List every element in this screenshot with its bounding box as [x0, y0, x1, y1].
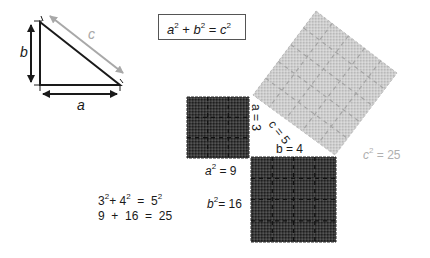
label-c: c: [88, 27, 95, 41]
equation-line-1: 32+ 42 = 52: [98, 193, 162, 207]
b-squared-square: [251, 157, 336, 242]
formula-eq: =: [209, 22, 217, 37]
pythagorean-formula: a2 + b2 = c2: [167, 21, 231, 37]
formula-b-exp: 2: [201, 21, 205, 30]
formula-a-exp: 2: [174, 21, 178, 30]
area-label-a: a2 = 9: [205, 163, 237, 177]
label-b: b: [20, 45, 28, 59]
formula-plus: +: [182, 22, 190, 37]
formula-b: b: [194, 22, 201, 37]
area-label-b: b2= 16: [207, 196, 242, 210]
side-label-b: b = 4: [276, 143, 303, 155]
side-label-a: a = 3: [250, 104, 262, 131]
formula-c-exp: 2: [227, 21, 231, 30]
label-a: a: [77, 98, 85, 112]
equation-line-2: 9 + 16 = 25: [98, 210, 172, 222]
right-triangle: [34, 16, 123, 91]
area-label-c: c2 = 25: [363, 147, 401, 161]
pythagorean-formula-box: a2 + b2 = c2: [158, 14, 246, 40]
a-squared-square: [187, 97, 249, 158]
c-arrow: [50, 16, 123, 73]
